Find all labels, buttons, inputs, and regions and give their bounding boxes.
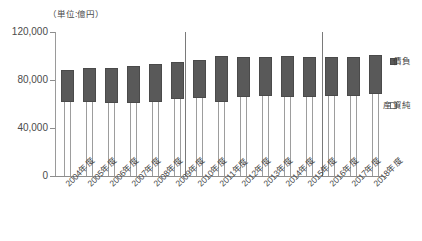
bar-segment-liabilities: [83, 68, 96, 102]
y-axis-label-0: 0: [0, 170, 48, 181]
bar-segment-liabilities: [259, 57, 272, 95]
unit-caption: （単位:億円）: [48, 7, 104, 19]
bar-segment-liabilities: [303, 57, 316, 97]
bar-segment-liabilities: [281, 56, 294, 97]
y-axis-label-40000: 40,000: [0, 122, 48, 133]
bar-segment-liabilities: [171, 62, 184, 99]
bar-segment-liabilities: [237, 57, 250, 97]
y-axis-label-80000: 80,000: [0, 74, 48, 85]
bar-segment-liabilities: [325, 57, 338, 95]
chart-canvas: （単位:億円） 120,000 80,000 40,000 0 2004年度20…: [0, 0, 422, 241]
section-divider-2: [322, 32, 323, 176]
bar-segment-liabilities: [61, 70, 74, 101]
bar-segment-liabilities: [193, 60, 206, 98]
bar-segment-liabilities: [369, 55, 382, 95]
bar-segment-net-assets: [64, 102, 71, 176]
legend-label-net-assets: 純資産: [399, 101, 409, 110]
bar-segment-liabilities: [347, 57, 360, 95]
bar-segment-liabilities: [105, 68, 118, 103]
legend-label-liabilities: 負債: [399, 57, 409, 66]
chart-legend: 負債 純資産: [390, 58, 420, 102]
bar-segment-liabilities: [215, 56, 228, 102]
bar-segment-liabilities: [127, 66, 140, 103]
bar-segment-liabilities: [149, 64, 162, 101]
y-axis-label-120000: 120,000: [0, 26, 48, 37]
section-divider-1: [185, 32, 186, 176]
